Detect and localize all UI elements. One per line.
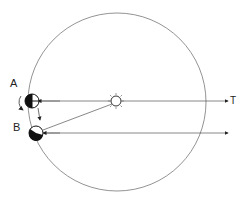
diagram: A B T <box>0 0 243 200</box>
label-b: B <box>13 122 20 133</box>
earth-a-icon <box>25 94 39 108</box>
earth-b-icon <box>29 126 43 141</box>
label-a: A <box>10 78 17 89</box>
orbit-motion-arrow <box>38 108 40 120</box>
line-b-to-sun <box>43 104 112 130</box>
diagram-canvas <box>0 0 243 200</box>
label-t: T <box>230 96 236 106</box>
rotation-arrow-icon <box>19 96 23 110</box>
